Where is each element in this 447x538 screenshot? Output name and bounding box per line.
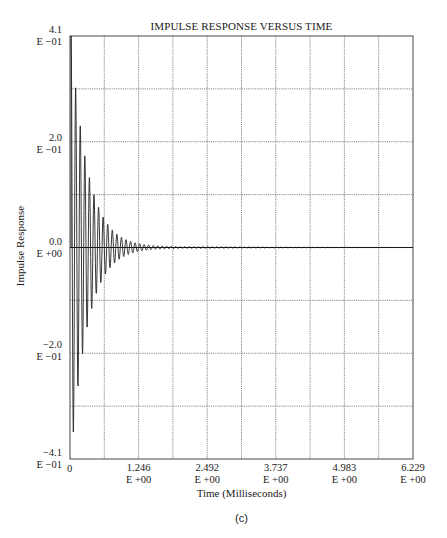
x-tick-label: 6.229E +00 [388, 462, 438, 486]
chart-title: IMPULSE RESPONSE VERSUS TIME [70, 20, 413, 32]
x-tick-label: 1.246E +00 [114, 462, 164, 486]
plot-area [0, 0, 447, 538]
y-tick-label: 4.1E −01 [37, 24, 62, 48]
x-axis-label: Time (Milliseconds) [70, 487, 413, 499]
figure-caption: (c) [70, 512, 413, 524]
x-tick-label: 3.737E +00 [251, 462, 301, 486]
x-tick-label: 2.492E +00 [182, 462, 232, 486]
y-tick-label: −2.0E −01 [37, 339, 62, 363]
x-tick-label: 4.983E +00 [319, 462, 369, 486]
impulse-response-trace [71, 36, 413, 432]
y-axis-label: Impulse Response [14, 196, 26, 296]
y-tick-label: −4.1E −01 [37, 447, 62, 471]
y-tick-label: 2.0E −01 [37, 132, 62, 156]
y-tick-label: 0.0E +00 [37, 236, 62, 260]
x-tick-label: 0 [67, 463, 79, 475]
